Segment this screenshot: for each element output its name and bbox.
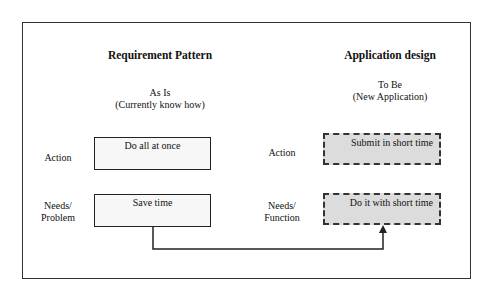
connector-arrow: [0, 0, 495, 296]
arrowhead-icon: [379, 225, 387, 233]
